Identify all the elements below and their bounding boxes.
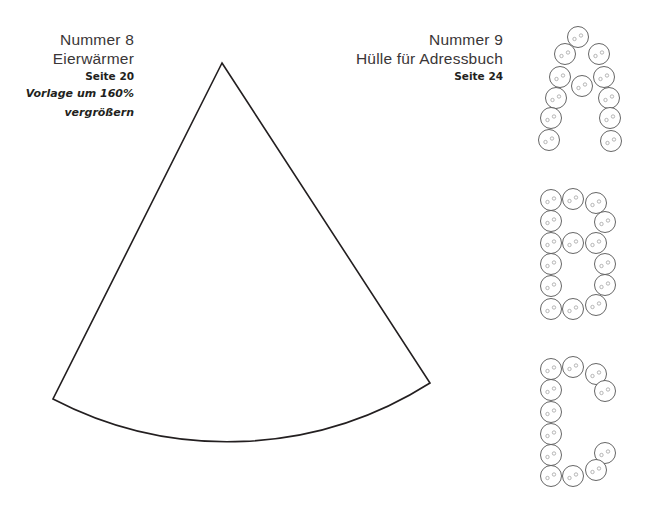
button-icon	[541, 254, 562, 275]
egg-cozy-template-sector	[53, 63, 430, 442]
button-icon	[595, 212, 616, 233]
button-icon	[586, 460, 607, 481]
button-icon	[563, 233, 584, 254]
button-icon	[600, 108, 621, 129]
button-icon	[586, 295, 607, 316]
button-icon	[586, 233, 607, 254]
button-icon	[568, 27, 589, 48]
button-icon	[541, 402, 562, 423]
button-icon	[541, 359, 562, 380]
button-icon	[541, 233, 562, 254]
button-icon	[563, 189, 584, 210]
button-icon	[550, 67, 571, 88]
button-icon	[541, 276, 562, 297]
button-icon	[601, 131, 622, 152]
button-icon	[589, 44, 610, 65]
button-icon	[541, 190, 562, 211]
button-icon	[563, 466, 584, 487]
letter-a-buttons	[539, 27, 622, 152]
button-icon	[555, 44, 576, 65]
button-icon	[541, 380, 562, 401]
button-icon	[546, 88, 567, 109]
button-icon	[572, 76, 593, 97]
button-icon	[595, 275, 616, 296]
button-icon	[541, 108, 562, 129]
button-icon	[541, 211, 562, 232]
letter-c-buttons	[541, 357, 616, 487]
button-icon	[594, 67, 615, 88]
letter-b-buttons	[541, 189, 616, 320]
button-icon	[541, 466, 562, 487]
button-icon	[563, 357, 584, 378]
button-letters	[539, 27, 622, 487]
button-icon	[541, 445, 562, 466]
button-icon	[595, 381, 616, 402]
button-icon	[595, 254, 616, 275]
button-icon	[539, 130, 560, 151]
button-icon	[541, 299, 562, 320]
button-icon	[586, 193, 607, 214]
button-icon	[563, 299, 584, 320]
pattern-drawing	[0, 0, 661, 510]
button-icon	[599, 88, 620, 109]
button-icon	[541, 424, 562, 445]
